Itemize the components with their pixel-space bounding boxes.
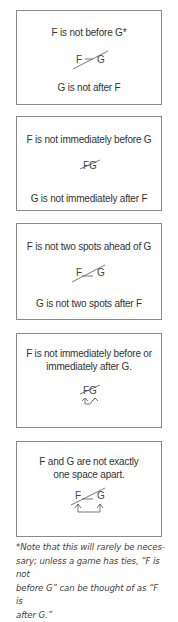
footnote-line-2: sary; unless a game has ties, “F is not [16, 555, 166, 582]
rule-diagram-not-two-spots-ahead: F G [17, 262, 163, 284]
letter-f: F [76, 54, 82, 65]
rule-top-text: F is not immediately before G [17, 134, 161, 146]
rule-box-not-immediately-before: F is not immediately before G F G G is n… [16, 116, 162, 211]
rule-diagram-not-one-space-apart: F G [17, 485, 163, 519]
bracket-arrows-icon [75, 504, 103, 512]
swap-arrows-icon [82, 398, 98, 404]
rule-box-not-one-space-apart: F and G are not exactly one space apart.… [16, 441, 162, 537]
rule-top-text-line-1: F and G are not exactly [17, 456, 161, 468]
footnote-line-3: before G” can be thought of as “F is [16, 582, 166, 609]
rule-top-text-line-2: one space apart. [17, 469, 161, 481]
rule-diagram-not-adjacent: F G [17, 382, 163, 410]
rule-diagram-not-immediately-before: F G [17, 157, 163, 173]
rule-top-text-line-2: immediately after G. [17, 361, 161, 373]
rule-bottom-text: G is not two spots after F [17, 298, 161, 310]
footnote-line-4: after G.” [16, 609, 166, 622]
rule-top-text: F is not before G* [17, 27, 161, 39]
letter-f: F [75, 490, 81, 501]
rule-box-not-before: F is not before G* F G G is not after F [16, 10, 162, 105]
footnote: *Note that this will rarely be neces- sa… [16, 541, 166, 622]
rule-bottom-text: G is not immediately after F [17, 193, 161, 205]
rule-top-text: F is not two spots ahead of G [17, 241, 161, 253]
rule-bottom-text: G is not after F [17, 82, 161, 94]
letter-f: F [76, 267, 82, 278]
rule-diagram-not-before: F G [17, 49, 163, 71]
footnote-line-1: *Note that this will rarely be neces- [16, 541, 166, 555]
rule-box-not-two-spots-ahead: F is not two spots ahead of G F G G is n… [16, 223, 162, 320]
rule-top-text-line-1: F is not immediately before or [17, 348, 161, 360]
rule-box-not-adjacent: F is not immediately before or immediate… [16, 333, 162, 428]
